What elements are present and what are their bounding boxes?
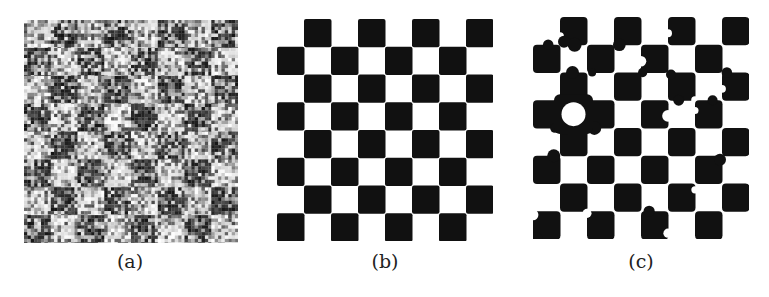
caption-c: (c) [611, 250, 671, 272]
clean-checkerboard-image [277, 19, 493, 241]
noisy-checkerboard-image [24, 20, 238, 243]
blobby-checkerboard-image [533, 17, 749, 239]
caption-b: (b) [355, 250, 415, 272]
panel-a-noisy-checkerboard [24, 20, 238, 243]
caption-a: (a) [100, 250, 160, 272]
panel-c-blobby-segmentation [533, 17, 749, 239]
panel-b-clean-segmentation [277, 19, 493, 241]
